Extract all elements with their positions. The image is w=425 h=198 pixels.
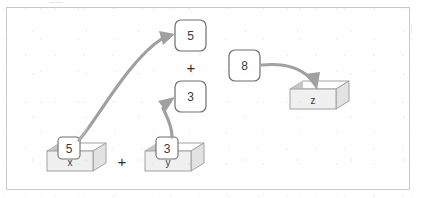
scan-artifact-right — [411, 24, 412, 33]
card-operand-right-text: 3 — [187, 90, 194, 104]
card-x-value[interactable]: 5 — [58, 137, 80, 159]
arrow-x-to-operand-shaft — [79, 38, 163, 140]
arrow-x-to-operand-head — [159, 31, 175, 45]
card-operand-left-text: 5 — [187, 29, 194, 43]
card-result-text: 8 — [241, 59, 248, 73]
scan-artifact-top — [49, 2, 63, 3]
box-z-label: z — [311, 95, 316, 106]
operator-boxes: + — [118, 153, 127, 170]
diagram-stage: x 5 + y 3 z — [0, 0, 425, 198]
arrow-y-to-operand — [158, 97, 175, 137]
card-result[interactable]: 8 — [229, 50, 260, 81]
card-operand-right[interactable]: 3 — [175, 81, 206, 112]
operator-expression: + — [187, 59, 196, 76]
card-x-value-text: 5 — [66, 142, 73, 156]
arrow-result-to-z-shaft — [262, 65, 310, 78]
arrow-x-to-operand — [79, 31, 175, 140]
card-operand-left[interactable]: 5 — [175, 20, 206, 51]
box-z[interactable]: z — [290, 81, 349, 109]
arrow-y-to-operand-shaft — [163, 108, 172, 137]
card-y-value[interactable]: 3 — [156, 137, 178, 159]
arrow-y-to-operand-head — [158, 97, 175, 111]
card-y-value-text: 3 — [164, 142, 171, 156]
diagram-canvas: x 5 + y 3 z — [0, 0, 425, 198]
